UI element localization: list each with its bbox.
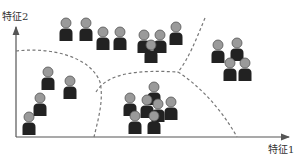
person-icon [165,97,178,120]
person-icon [170,22,183,45]
boundary-line-2 [96,71,178,92]
clustering-figure: 特征2 特征1 [0,0,301,158]
person-icon [114,27,127,50]
person-icon [42,67,55,90]
cluster-bottom-middle [124,82,178,134]
scatter-plot [0,0,301,158]
person-icon [129,111,142,134]
person-icon [34,93,47,116]
person-icon [60,18,73,41]
data-points [23,18,252,135]
y-axis-label: 特征2 [2,8,28,23]
person-icon [231,38,244,61]
person-icon [80,18,93,41]
person-icon [154,30,167,53]
x-axis-label: 特征1 [268,141,294,156]
person-icon [64,76,77,99]
person-icon [148,111,161,134]
cluster-right [212,38,252,81]
person-icon [239,58,252,81]
person-icon [97,27,110,50]
person-icon [23,112,36,135]
person-icon [224,58,237,81]
cropped-caption-text [0,0,301,2]
person-icon [212,40,225,63]
cluster-top [60,18,183,63]
person-icon [145,40,158,63]
cluster-left [23,67,77,135]
